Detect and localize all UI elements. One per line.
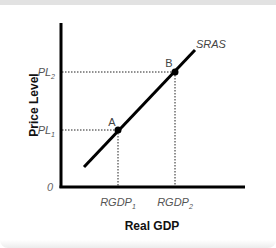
point-b-label: B [165,57,172,69]
rgdp1-tick-label: RGDP1 [100,196,136,210]
sras-label: SRAS [196,38,227,50]
y-axis-title: Price Level [27,73,41,136]
sras-chart: A B SRAS PL2 PL1 0 RGDP1 RGDP2 Real GDP … [0,0,276,248]
origin-label: 0 [47,181,54,193]
point-a-label: A [108,116,116,128]
point-b-marker [172,69,179,76]
rgdp2-tick-label: RGDP2 [157,196,193,210]
sras-curve [84,50,195,167]
x-axis-title: Real GDP [125,219,180,233]
